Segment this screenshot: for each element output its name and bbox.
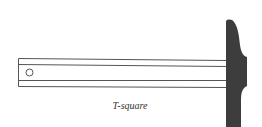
blade-top-edge: [19, 59, 228, 61]
t-square-head: [226, 20, 247, 127]
blade-inner-line-top: [19, 65, 228, 67]
blade-bottom-edge: [19, 87, 228, 88]
hang-hole-icon: [26, 69, 33, 76]
figure-caption: T-square: [100, 100, 160, 111]
blade: [19, 59, 228, 88]
